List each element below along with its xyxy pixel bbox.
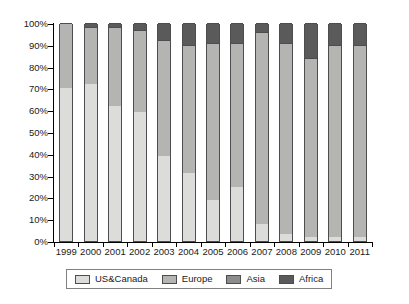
bar-segment[interactable] — [109, 106, 121, 241]
bar-segment[interactable] — [85, 84, 97, 241]
bar-segment[interactable] — [280, 43, 292, 235]
bar-segment[interactable] — [134, 30, 146, 113]
bar-segment[interactable] — [305, 237, 317, 241]
bar-segment[interactable] — [329, 237, 341, 241]
x-axis-tick-mark — [299, 243, 300, 247]
bar-segment[interactable] — [183, 23, 195, 45]
bar-segment[interactable] — [109, 27, 121, 105]
bar-column[interactable] — [304, 24, 318, 242]
legend-item[interactable]: Europe — [162, 274, 213, 284]
y-axis-tick-mark — [48, 89, 53, 90]
stacked-bar[interactable] — [328, 24, 342, 242]
bar-segment[interactable] — [134, 112, 146, 241]
bar-segment[interactable] — [207, 200, 219, 241]
y-axis-tick-mark — [48, 155, 53, 156]
legend-item-label: Europe — [182, 274, 213, 284]
bar-column[interactable] — [353, 24, 367, 242]
bar-segment[interactable] — [85, 23, 97, 27]
bar-column[interactable] — [279, 24, 293, 242]
x-axis-tick-mark — [250, 243, 251, 247]
x-axis-tick-label: 1999 — [54, 245, 78, 259]
y-axis-tick-label: 80% — [0, 63, 48, 73]
bar-segment[interactable] — [158, 156, 170, 241]
bar-segment[interactable] — [280, 23, 292, 43]
y-axis-tick-mark — [48, 220, 53, 221]
bar-segment[interactable] — [60, 23, 72, 88]
bar-segment[interactable] — [354, 45, 366, 237]
bar-segment[interactable] — [329, 45, 341, 237]
x-axis-tick-label: 2004 — [176, 245, 200, 259]
bar-column[interactable] — [255, 24, 269, 242]
x-axis-tick-label: 2007 — [250, 245, 274, 259]
x-axis-tick-label: 2005 — [201, 245, 225, 259]
bar-segment[interactable] — [354, 23, 366, 45]
stacked-bar[interactable] — [279, 24, 293, 242]
stacked-bar[interactable] — [182, 24, 196, 242]
x-axis-tick-label: 2009 — [299, 245, 323, 259]
legend-item-label: Africa — [299, 274, 323, 284]
x-axis-tick-label: 2011 — [348, 245, 372, 259]
bar-segment[interactable] — [207, 23, 219, 43]
bar-column[interactable] — [182, 24, 196, 242]
x-axis-tick-mark — [372, 243, 373, 247]
bar-column[interactable] — [206, 24, 220, 242]
bar-column[interactable] — [133, 24, 147, 242]
bar-column[interactable] — [108, 24, 122, 242]
bar-segment[interactable] — [231, 23, 243, 43]
legend-item-label: Asia — [246, 274, 264, 284]
bar-segment[interactable] — [256, 23, 268, 32]
bar-segment[interactable] — [85, 27, 97, 84]
stacked-bar[interactable] — [133, 24, 147, 242]
chart-legend: US&CanadaEuropeAsiaAfrica — [66, 269, 332, 289]
legend-item[interactable]: Africa — [279, 274, 323, 284]
stacked-bar[interactable] — [157, 24, 171, 242]
bar-segment[interactable] — [256, 224, 268, 241]
bar-segment[interactable] — [183, 173, 195, 241]
y-axis-tick-mark — [48, 46, 53, 47]
bar-segment[interactable] — [280, 234, 292, 241]
legend-item-label: US&Canada — [95, 274, 148, 284]
y-axis-tick-label: 100% — [0, 19, 48, 29]
bar-column[interactable] — [230, 24, 244, 242]
y-axis-tick-mark — [48, 198, 53, 199]
stacked-bar[interactable] — [206, 24, 220, 242]
stacked-bar[interactable] — [255, 24, 269, 242]
stacked-bar[interactable] — [230, 24, 244, 242]
bar-segment[interactable] — [60, 88, 72, 241]
bar-segment[interactable] — [158, 23, 170, 40]
bar-column[interactable] — [84, 24, 98, 242]
stacked-bar[interactable] — [353, 24, 367, 242]
x-axis-tick-label: 2008 — [274, 245, 298, 259]
stacked-bar[interactable] — [59, 24, 73, 242]
x-axis-tick-label: 2002 — [127, 245, 151, 259]
bar-column[interactable] — [59, 24, 73, 242]
bar-segment[interactable] — [329, 23, 341, 45]
legend-item[interactable]: US&Canada — [75, 274, 148, 284]
x-axis-tick-label: 2010 — [323, 245, 347, 259]
bar-segment[interactable] — [134, 23, 146, 30]
x-axis-tick-mark — [348, 243, 349, 247]
bar-segment[interactable] — [256, 32, 268, 224]
y-axis-tick-label: 40% — [0, 150, 48, 160]
legend-swatch-icon — [279, 275, 294, 284]
y-axis-tick-mark — [48, 242, 53, 243]
bar-segment[interactable] — [109, 23, 121, 27]
bar-segment[interactable] — [305, 23, 317, 58]
bar-column[interactable] — [328, 24, 342, 242]
bar-segment[interactable] — [305, 58, 317, 237]
stacked-bar[interactable] — [304, 24, 318, 242]
y-axis-tick-label: 30% — [0, 172, 48, 182]
bar-segment[interactable] — [354, 237, 366, 241]
bar-segment[interactable] — [231, 43, 243, 187]
bar-segment[interactable] — [183, 45, 195, 174]
stacked-bar[interactable] — [108, 24, 122, 242]
bar-column[interactable] — [157, 24, 171, 242]
bar-segment[interactable] — [158, 40, 170, 156]
bar-segment[interactable] — [231, 187, 243, 242]
bar-segment[interactable] — [207, 43, 219, 200]
stacked-bar[interactable] — [84, 24, 98, 242]
x-axis-line — [53, 242, 373, 243]
legend-item[interactable]: Asia — [226, 274, 264, 284]
y-axis-tick-label: 0% — [0, 237, 48, 247]
legend-swatch-icon — [226, 275, 241, 284]
